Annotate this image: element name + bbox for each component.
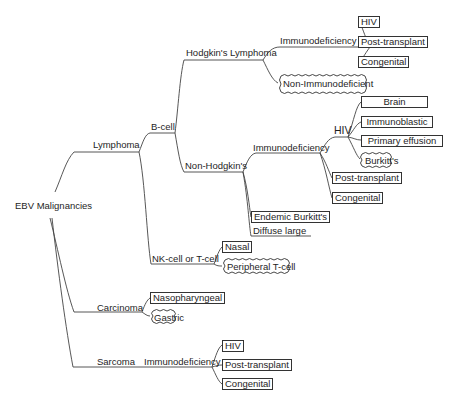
leaf-nasopharyngeal: Nasopharyngeal (150, 292, 225, 304)
node-lymphoma: Lymphoma (93, 139, 140, 150)
node-carcinoma: Carcinoma (97, 302, 143, 313)
node-ebv-malignancies: EBV Malignancies (15, 200, 92, 211)
leaf-non-immunodeficient: Non-Immunodeficient (280, 77, 376, 90)
node-non-hodgkins: Non-Hodgkin's (185, 160, 247, 171)
node-nhl-hiv: HIV (334, 125, 352, 136)
leaf-sarcoma-post-transplant: Post-transplant (222, 359, 292, 371)
leaf-hodgkins-post-transplant: Post-transplant (358, 36, 428, 48)
node-nhl-immunodeficiency: Immunodeficiency (253, 142, 330, 153)
node-sarcoma-immunodeficiency: Immunodeficiency (144, 356, 221, 367)
leaf-endemic-burkitts: Endemic Burkitt's (251, 211, 330, 223)
node-b-cell: B-cell (151, 121, 175, 132)
leaf-sarcoma-hiv: HIV (222, 340, 244, 352)
leaf-hodgkins-hiv: HIV (358, 16, 380, 28)
leaf-brain: Brain (361, 96, 428, 108)
node-nk-t-cell: NK-cell or T-cell (152, 253, 219, 264)
node-hodgkins-lymphoma: Hodgkin's Lymphoma (186, 47, 277, 58)
leaf-gastric: Gastric (151, 311, 187, 324)
leaf-peripheral-t-cell: Peripheral T-cell (224, 260, 298, 273)
node-hodgkins-immunodeficiency: Immunodeficiency (280, 35, 357, 46)
leaf-nhl-congenital: Congenital (332, 192, 383, 204)
leaf-nhl-post-transplant: Post-transplant (332, 172, 402, 184)
leaf-primary-effusion: Primary effusion (361, 135, 443, 147)
leaf-diffuse-large: Diffuse large (253, 225, 306, 236)
node-sarcoma: Sarcoma (97, 356, 135, 367)
leaf-nasal: Nasal (222, 241, 252, 253)
leaf-sarcoma-congenital: Congenital (222, 378, 273, 390)
leaf-hodgkins-congenital: Congenital (358, 56, 409, 68)
leaf-burkitts: Burkitt's (362, 154, 402, 167)
leaf-immunoblastic: Immunoblastic (361, 116, 433, 128)
